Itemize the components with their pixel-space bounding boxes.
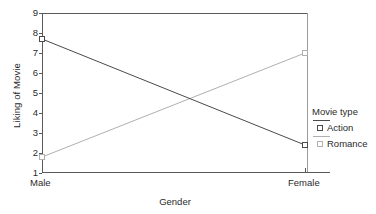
x-tick-label-male: Male (30, 178, 51, 188)
legend-marker-romance (317, 141, 323, 147)
legend-title: Movie type (312, 106, 376, 117)
series-line-action (42, 39, 305, 145)
marker-action-male (40, 37, 45, 42)
marker-action-female (303, 143, 308, 148)
data-point-markers (40, 37, 308, 160)
series-line-romance (42, 53, 305, 157)
marker-romance-male (40, 155, 45, 160)
legend-entry-romance[interactable]: Romance (312, 136, 376, 149)
x-tick-label-female: Female (288, 178, 320, 188)
legend: Movie type Action Romance (312, 106, 376, 149)
interaction-line-chart: Liking of Movie 9 8 7 6 5 4 3 2 1 (0, 0, 376, 214)
x-axis-title: Gender (0, 196, 350, 207)
legend-label-action: Action (327, 122, 353, 133)
legend-label-romance: Romance (327, 138, 368, 149)
axis-frame (42, 13, 330, 173)
legend-line-romance (313, 136, 330, 137)
legend-line-action (313, 120, 330, 121)
legend-entry-action[interactable]: Action (312, 120, 376, 133)
legend-marker-action (317, 125, 323, 131)
marker-romance-female (303, 51, 308, 56)
